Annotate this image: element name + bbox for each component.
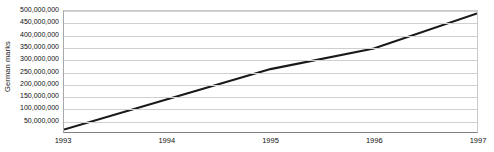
x-axis-tick-label: 1997 — [470, 136, 487, 145]
y-axis-tick-label: 300,000,000 — [20, 55, 59, 63]
y-axis-tick-label: 200,000,000 — [20, 80, 59, 88]
y-axis-tick-labels: 500,000,000450,000,000400,000,000350,000… — [12, 0, 61, 140]
x-axis-tick-labels: 19931994199519961997 — [0, 136, 494, 152]
x-axis-tick-label: 1994 — [158, 136, 175, 145]
y-axis-tick-label: 250,000,000 — [20, 68, 59, 76]
gridline — [64, 73, 477, 74]
y-axis-tick-label: 50,000,000 — [24, 117, 59, 125]
gridline — [64, 122, 477, 123]
gridline — [64, 85, 477, 86]
gridline — [64, 11, 477, 12]
x-axis-tick-label: 1993 — [55, 136, 72, 145]
gridline — [64, 109, 477, 110]
y-axis-tick-label: 350,000,000 — [20, 43, 59, 51]
plot-area — [63, 10, 478, 133]
gridline — [64, 36, 477, 37]
y-axis-title-label: German marks — [3, 41, 12, 92]
y-axis-tick-label: 450,000,000 — [20, 18, 59, 26]
gridline — [64, 48, 477, 49]
x-axis-tick-label: 1996 — [366, 136, 383, 145]
y-axis-tick-label: 150,000,000 — [20, 92, 59, 100]
x-axis-tick-label: 1995 — [262, 136, 279, 145]
gridline — [64, 97, 477, 98]
line-chart: German marks 500,000,000450,000,000400,0… — [0, 0, 494, 152]
y-axis-tick-label: 400,000,000 — [20, 31, 59, 39]
y-axis-tick-label: 500,000,000 — [20, 6, 59, 14]
data-line — [64, 13, 477, 129]
gridline — [64, 60, 477, 61]
series-line-german-marks — [64, 11, 477, 132]
gridline — [64, 23, 477, 24]
y-axis-tick-label: 100,000,000 — [20, 104, 59, 112]
